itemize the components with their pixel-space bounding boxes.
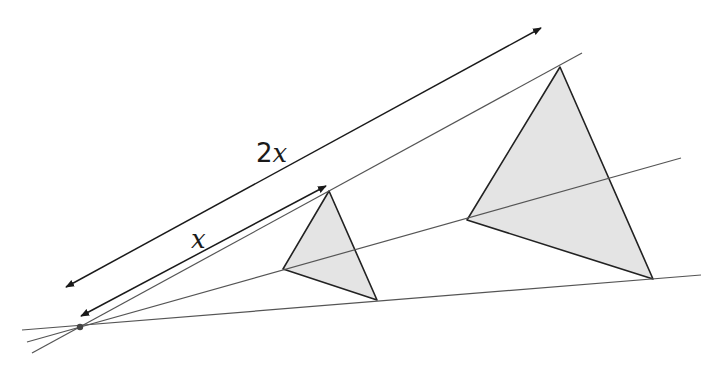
center-of-enlargement [77,324,83,330]
label-2x: 2x [256,140,287,166]
label-x: x [191,226,206,252]
enlargement-diagram [0,0,707,369]
label-2x-variable: x [273,138,288,168]
label-2x-number: 2 [256,138,273,168]
label-x-variable: x [191,224,206,254]
triangles [283,67,653,300]
image-triangle [467,67,653,279]
object-triangle [283,191,377,300]
